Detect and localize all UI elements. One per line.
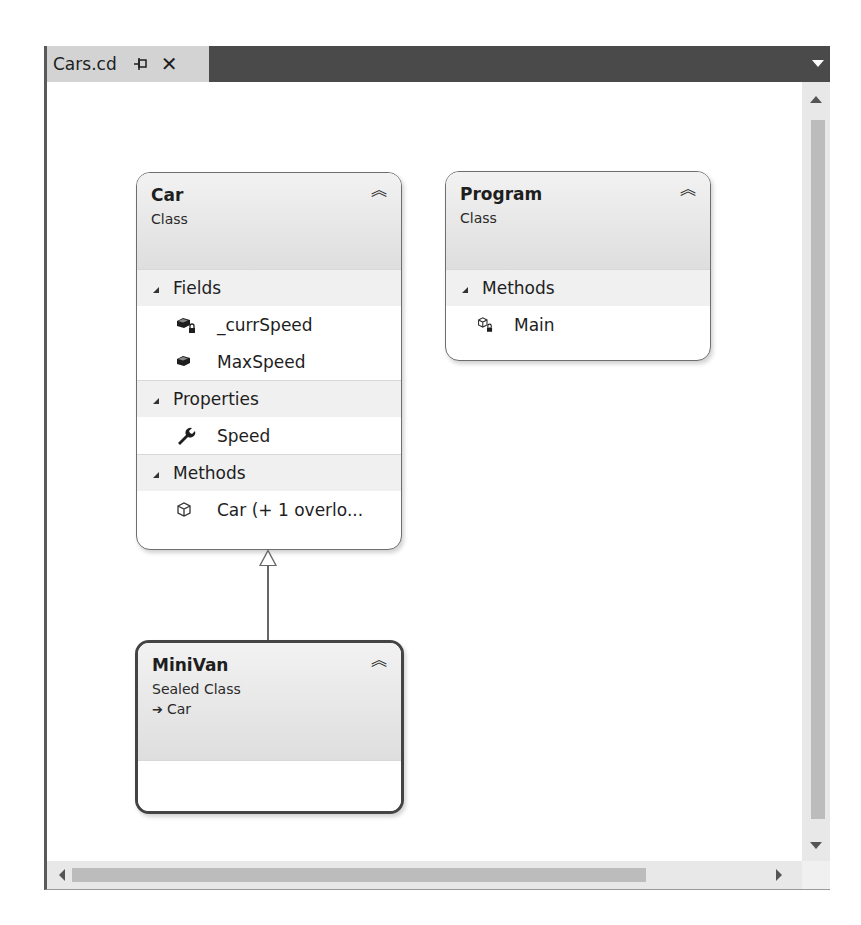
member-currspeed[interactable]: _currSpeed	[137, 306, 401, 343]
property-wrench-icon	[175, 426, 197, 446]
close-icon[interactable]: ✕	[161, 54, 178, 74]
double-chevron-up-icon[interactable]: ︽	[371, 653, 387, 667]
class-shape-car[interactable]: Car Class ︽ Fields _currSpeed MaxSpeed P…	[136, 172, 402, 550]
pin-icon[interactable]	[133, 56, 149, 72]
scrollbar-corner	[802, 861, 830, 889]
class-name: Program	[460, 184, 696, 204]
document-tab-bar: Cars.cd ✕	[47, 46, 830, 82]
member-name: MaxSpeed	[217, 352, 305, 372]
member-maxspeed[interactable]: MaxSpeed	[137, 343, 401, 380]
private-field-icon	[175, 315, 197, 335]
class-name: Car	[151, 185, 387, 205]
shape-header: Program Class ︽	[446, 172, 710, 269]
shape-header: Car Class ︽	[137, 173, 401, 269]
method-cube-icon	[175, 500, 197, 520]
class-name: MiniVan	[152, 655, 387, 675]
section-methods[interactable]: Methods	[137, 454, 401, 491]
class-shape-minivan[interactable]: MiniVan Sealed Class ➔ Car ︽	[135, 640, 404, 814]
scroll-right-icon[interactable]	[776, 869, 782, 881]
tab-title: Cars.cd	[53, 54, 117, 74]
expand-triangle-icon	[153, 398, 159, 404]
base-class: ➔ Car	[152, 701, 387, 717]
member-name: Car (+ 1 overlo...	[217, 500, 363, 520]
expand-triangle-icon	[153, 472, 159, 478]
scroll-up-icon[interactable]	[810, 96, 822, 103]
scroll-down-icon[interactable]	[810, 842, 822, 849]
member-name: _currSpeed	[217, 315, 313, 335]
horizontal-scrollbar[interactable]	[47, 861, 802, 889]
base-class-name: Car	[167, 701, 191, 717]
double-chevron-up-icon[interactable]: ︽	[680, 182, 696, 196]
expand-triangle-icon	[153, 287, 159, 293]
section-fields[interactable]: Fields	[137, 269, 401, 306]
vertical-scroll-thumb[interactable]	[811, 120, 825, 819]
inherits-arrow-icon: ➔	[152, 702, 163, 717]
tab-cars-cd[interactable]: Cars.cd ✕	[47, 46, 209, 82]
horizontal-scroll-thumb[interactable]	[72, 868, 646, 882]
double-chevron-up-icon[interactable]: ︽	[371, 183, 387, 197]
scroll-left-icon[interactable]	[59, 869, 65, 881]
private-method-icon	[476, 315, 498, 335]
section-properties[interactable]: Properties	[137, 380, 401, 417]
class-shape-program[interactable]: Program Class ︽ Methods Main	[445, 171, 711, 361]
member-speed[interactable]: Speed	[137, 417, 401, 454]
vertical-scrollbar[interactable]	[802, 82, 830, 861]
section-label: Methods	[173, 463, 246, 483]
expand-triangle-icon	[462, 287, 468, 293]
inheritance-arrow-fill	[261, 552, 275, 565]
chevron-down-icon[interactable]	[812, 60, 824, 67]
class-kind: Class	[460, 210, 696, 226]
class-kind: Sealed Class	[152, 681, 387, 697]
shape-body	[138, 760, 401, 811]
member-main[interactable]: Main	[446, 306, 710, 343]
member-name: Main	[514, 315, 555, 335]
inheritance-line[interactable]	[267, 560, 269, 640]
section-label: Properties	[173, 389, 259, 409]
shape-header: MiniVan Sealed Class ➔ Car ︽	[138, 643, 401, 760]
member-car-constructor[interactable]: Car (+ 1 overlo...	[137, 491, 401, 528]
class-kind: Class	[151, 211, 387, 227]
section-methods[interactable]: Methods	[446, 269, 710, 306]
member-name: Speed	[217, 426, 270, 446]
section-label: Methods	[482, 278, 555, 298]
field-icon	[175, 352, 197, 372]
section-label: Fields	[173, 278, 221, 298]
